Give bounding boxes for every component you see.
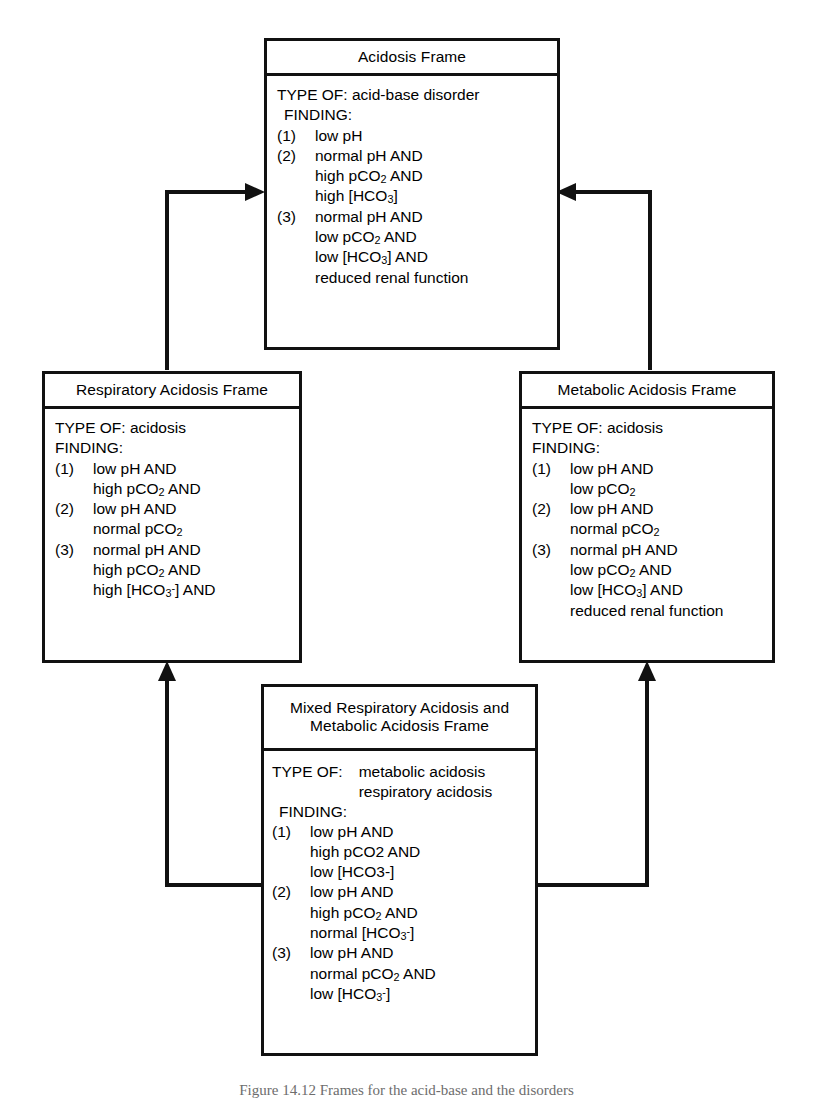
respiratory-type-of-label: TYPE OF: [55, 418, 126, 438]
acidosis-finding-1-num: (1) [277, 126, 315, 146]
mixed-finding-1-num: (1) [272, 822, 310, 842]
respiratory-finding-3-line-2: high pCO2 AND [93, 560, 216, 580]
respiratory-finding-3-line-1: normal pH AND [93, 540, 216, 560]
mixed-finding-2-line-2: high pCO2 AND [310, 903, 418, 923]
metabolic-finding-3: (3) normal pH AND low pCO2 AND low [HCO3… [532, 540, 766, 621]
acidosis-finding-3-line-4: reduced renal function [315, 268, 468, 288]
mixed-finding-2-line-3: normal [HCO3-] [310, 923, 418, 943]
metabolic-finding-1-line-2: low pCO2 [570, 479, 654, 499]
metabolic-finding-label: FINDING: [532, 438, 766, 458]
respiratory-finding-1: (1) low pH AND high pCO2 AND [55, 459, 293, 500]
mixed-type-of-value-2: respiratory acidosis [359, 782, 493, 802]
mixed-finding-2: (2) low pH AND high pCO2 AND normal [HCO… [272, 882, 529, 943]
respiratory-finding-1-line-2: high pCO2 AND [93, 479, 201, 499]
acidosis-finding-1: (1) low pH [277, 126, 551, 146]
metabolic-type-of: TYPE OF: acidosis [532, 418, 766, 438]
frame-mixed-body: TYPE OF: metabolic acidosis respiratory … [264, 751, 535, 1011]
frame-respiratory-acidosis[interactable]: Respiratory Acidosis Frame TYPE OF: acid… [42, 371, 302, 663]
metabolic-finding-1: (1) low pH AND low pCO2 [532, 459, 766, 500]
metabolic-finding-1-line-1: low pH AND [570, 459, 654, 479]
frame-metabolic-acidosis[interactable]: Metabolic Acidosis Frame TYPE OF: acidos… [519, 371, 775, 663]
frame-respiratory-body: TYPE OF: acidosis FINDING: (1) low pH AN… [45, 409, 299, 607]
mixed-finding-1-line-3: low [HCO3-] [310, 862, 420, 882]
connector-mixed-right-vertical [645, 680, 649, 887]
respiratory-finding-3-num: (3) [55, 540, 93, 560]
acidosis-finding-2-line-2: high pCO2 AND [315, 166, 423, 186]
respiratory-finding-2-num: (2) [55, 499, 93, 519]
mixed-finding-1-lines: low pH AND high pCO2 AND low [HCO3-] [310, 822, 420, 882]
frame-acidosis-title: Acidosis Frame [267, 41, 557, 76]
metabolic-finding-3-num: (3) [532, 540, 570, 560]
arrow-respiratory-to-acidosis [245, 183, 265, 201]
frame-metabolic-title: Metabolic Acidosis Frame [522, 374, 772, 409]
metabolic-finding-3-line-4: reduced renal function [570, 601, 723, 621]
acidosis-finding-1-lines: low pH [315, 126, 362, 146]
acidosis-finding-2-line-3: high [HCO3] [315, 186, 423, 206]
mixed-type-of-value-1: metabolic acidosis [359, 762, 493, 782]
connector-mixed-left-horizontal [165, 883, 265, 887]
metabolic-finding-1-lines: low pH AND low pCO2 [570, 459, 654, 500]
respiratory-finding-3-line-3: high [HCO3-] AND [93, 580, 216, 600]
acidosis-finding-3: (3) normal pH AND low pCO2 AND low [HCO3… [277, 207, 551, 288]
metabolic-finding-2-line-2: normal pCO2 [570, 519, 660, 539]
arrow-mixed-to-respiratory [158, 661, 176, 681]
acidosis-finding-3-line-1: normal pH AND [315, 207, 468, 227]
metabolic-finding-3-lines: normal pH AND low pCO2 AND low [HCO3] AN… [570, 540, 723, 621]
metabolic-finding-3-line-2: low pCO2 AND [570, 560, 723, 580]
frame-mixed-title-line-2: Metabolic Acidosis Frame [268, 717, 531, 735]
figure-caption: Figure 14.12 Frames for the acid-base an… [0, 1082, 813, 1098]
connector-mixed-left-vertical [165, 680, 169, 887]
frame-acidosis[interactable]: Acidosis Frame TYPE OF: acid-base disord… [264, 38, 560, 350]
respiratory-finding-2-lines: low pH AND normal pCO2 [93, 499, 183, 540]
respiratory-type-of-value: acidosis [130, 419, 186, 436]
mixed-finding-2-num: (2) [272, 882, 310, 902]
metabolic-finding-1-num: (1) [532, 459, 570, 479]
acidosis-finding-2: (2) normal pH AND high pCO2 AND high [HC… [277, 146, 551, 207]
acidosis-finding-2-lines: normal pH AND high pCO2 AND high [HCO3] [315, 146, 423, 207]
mixed-finding-3-line-1: low pH AND [310, 943, 436, 963]
connector-respiratory-vertical [165, 190, 169, 370]
respiratory-finding-label: FINDING: [55, 438, 293, 458]
mixed-finding-3-lines: low pH AND normal pCO2 AND low [HCO3-] [310, 943, 436, 1004]
acidosis-finding-3-line-2: low pCO2 AND [315, 227, 468, 247]
frame-mixed-title: Mixed Respiratory Acidosis and Metabolic… [264, 687, 535, 751]
connector-mixed-right-horizontal [537, 883, 649, 887]
arrow-mixed-to-metabolic [638, 661, 656, 681]
mixed-finding-label: FINDING: [272, 802, 529, 822]
frame-respiratory-title: Respiratory Acidosis Frame [45, 374, 299, 409]
metabolic-finding-2-lines: low pH AND normal pCO2 [570, 499, 660, 540]
frame-metabolic-body: TYPE OF: acidosis FINDING: (1) low pH AN… [522, 409, 772, 627]
respiratory-finding-3-lines: normal pH AND high pCO2 AND high [HCO3-]… [93, 540, 216, 601]
acidosis-finding-3-num: (3) [277, 207, 315, 227]
mixed-finding-1: (1) low pH AND high pCO2 AND low [HCO3-] [272, 822, 529, 882]
acidosis-finding-2-num: (2) [277, 146, 315, 166]
frame-acidosis-body: TYPE OF: acid-base disorder FINDING: (1)… [267, 76, 557, 294]
mixed-type-of: TYPE OF: metabolic acidosis respiratory … [272, 762, 529, 802]
acidosis-type-of: TYPE OF: acid-base disorder [277, 85, 551, 105]
acidosis-finding-3-lines: normal pH AND low pCO2 AND low [HCO3] AN… [315, 207, 468, 288]
respiratory-type-of: TYPE OF: acidosis [55, 418, 293, 438]
respiratory-finding-1-num: (1) [55, 459, 93, 479]
respiratory-finding-1-lines: low pH AND high pCO2 AND [93, 459, 201, 500]
acidosis-type-of-label: TYPE OF: [277, 85, 348, 105]
respiratory-finding-2-line-2: normal pCO2 [93, 519, 183, 539]
respiratory-finding-1-line-1: low pH AND [93, 459, 201, 479]
metabolic-finding-2-num: (2) [532, 499, 570, 519]
mixed-finding-2-line-1: low pH AND [310, 882, 418, 902]
mixed-finding-1-line-1: low pH AND [310, 822, 420, 842]
mixed-type-of-label: TYPE OF: [272, 762, 359, 782]
metabolic-finding-3-line-1: normal pH AND [570, 540, 723, 560]
metabolic-finding-2-line-1: low pH AND [570, 499, 660, 519]
connector-metabolic-vertical [648, 190, 652, 370]
respiratory-finding-3: (3) normal pH AND high pCO2 AND high [HC… [55, 540, 293, 601]
connector-metabolic-horizontal [575, 190, 652, 194]
acidosis-finding-label: FINDING: [277, 105, 551, 125]
figure-canvas: Acidosis Frame TYPE OF: acid-base disord… [0, 0, 813, 1098]
respiratory-finding-2-line-1: low pH AND [93, 499, 183, 519]
metabolic-finding-3-line-3: low [HCO3] AND [570, 580, 723, 600]
metabolic-type-of-value: acidosis [607, 419, 663, 436]
frame-mixed-title-line-1: Mixed Respiratory Acidosis and [268, 699, 531, 717]
frame-mixed-acidosis[interactable]: Mixed Respiratory Acidosis and Metabolic… [261, 684, 538, 1056]
metabolic-type-of-label: TYPE OF: [532, 418, 603, 438]
mixed-type-of-values: metabolic acidosis respiratory acidosis [359, 762, 493, 802]
